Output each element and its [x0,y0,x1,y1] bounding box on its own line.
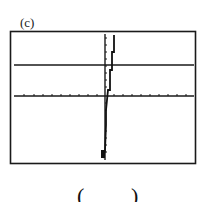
calculator-graph [0,0,205,202]
answer-open-paren: ( [77,183,84,202]
answer-close-paren: ) [131,183,138,202]
